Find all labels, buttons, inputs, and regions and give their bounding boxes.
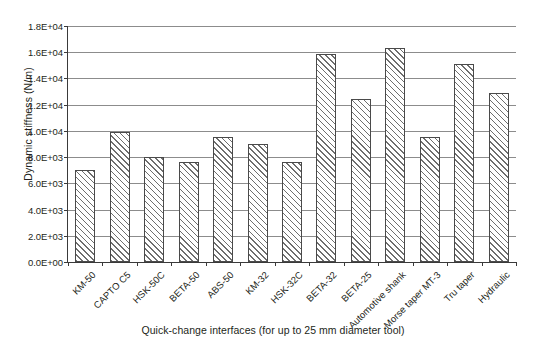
x-axis-label-text: KM-32 [243,269,271,297]
bar-slot [344,26,378,262]
bar-slot [240,26,274,262]
y-tick-label: 8.0E+03 [28,152,63,163]
bar-chart: Dynamic stiffness (N/m) 0.0E+002.0E+034.… [0,0,546,350]
y-tick-label: 1.6E+04 [28,47,63,58]
bar-slot [137,26,171,262]
bar[interactable] [385,48,405,262]
bar-slot [275,26,309,262]
x-axis-label-text: Tru taper [442,269,477,304]
x-axis-label-text: HSK-50C [131,269,167,305]
y-tick-label: 6.0E+03 [28,178,63,189]
bar[interactable] [351,99,371,262]
bar-slot [206,26,240,262]
x-axis-label-text: HSK-32C [268,269,304,305]
bar-slot [309,26,343,262]
y-tick-label: 4.0E+03 [28,204,63,215]
bar[interactable] [110,132,130,262]
bar-slot [171,26,205,262]
bar[interactable] [489,93,509,262]
x-axis-label-text: ABS-50 [205,269,236,300]
y-tick-label: 1.8E+04 [28,21,63,32]
bar-slot [68,26,102,262]
bar-slot [378,26,412,262]
y-tick-label: 1.4E+04 [28,73,63,84]
x-axis-title: Quick-change interfaces (for up to 25 mm… [0,324,546,336]
y-tick-label: 0.0E+00 [28,257,63,268]
bar[interactable] [248,144,268,262]
x-axis-label-text: KM-50 [70,269,98,297]
bar[interactable] [316,54,336,262]
y-tick-label: 1.2E+04 [28,99,63,110]
x-axis-label-text: BETA-32 [304,269,339,304]
x-axis-label-text: Hydraulic [475,269,511,305]
bar-slot [102,26,136,262]
bar[interactable] [282,162,302,262]
bar[interactable] [75,170,95,262]
x-axis-label-text: BETA-50 [167,269,202,304]
y-tick-label: 2.0E+03 [28,230,63,241]
x-axis-category-labels: KM-50CAPTO C5HSK-50CBETA-50ABS-50KM-32HS… [67,263,516,323]
y-tick-label: 1.0E+04 [28,125,63,136]
